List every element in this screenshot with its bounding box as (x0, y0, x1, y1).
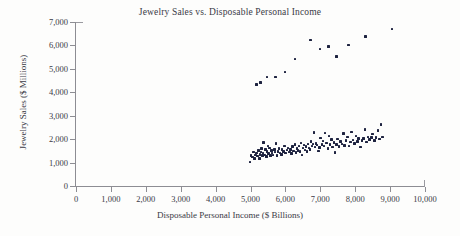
data-point (309, 39, 312, 42)
data-point (359, 146, 362, 149)
data-point (301, 154, 304, 157)
x-tick (320, 187, 321, 192)
data-point (276, 154, 279, 157)
x-tick (76, 187, 77, 192)
x-tick (111, 187, 112, 192)
y-tick-label: 1,000 (6, 158, 68, 168)
data-point (313, 131, 316, 134)
y-tick-label: 6,000 (6, 40, 68, 50)
data-point (319, 48, 322, 51)
y-tick (70, 22, 75, 23)
data-point (335, 55, 338, 58)
y-tick-label: 7,000 (6, 17, 68, 27)
data-point (309, 148, 312, 151)
y-tick (70, 163, 75, 164)
data-point (349, 141, 352, 144)
data-point (334, 151, 337, 154)
data-point (260, 147, 263, 150)
data-point (380, 123, 383, 126)
data-point (299, 150, 302, 153)
chart-screenshot: Jewelry Sales vs. Disposable Personal In… (0, 0, 460, 236)
y-axis-title: Jewelry Sales ($ Millions) (18, 27, 28, 177)
data-point (361, 139, 364, 142)
data-point (274, 76, 277, 79)
data-point (364, 35, 367, 38)
data-point (350, 131, 353, 134)
data-point (373, 139, 376, 142)
data-point (343, 144, 346, 147)
data-point (323, 145, 326, 148)
data-point (362, 137, 365, 140)
data-point (352, 139, 355, 142)
data-point (327, 45, 330, 48)
data-point (258, 157, 261, 160)
data-point (378, 138, 381, 141)
data-point (346, 136, 349, 139)
x-tick (251, 187, 252, 192)
data-point (290, 152, 293, 155)
data-point (322, 140, 325, 143)
data-point (364, 128, 367, 131)
x-tick (390, 187, 391, 192)
data-point (275, 142, 278, 145)
data-point (318, 146, 321, 149)
x-tick (146, 187, 147, 192)
data-point (249, 161, 252, 164)
data-point (280, 153, 283, 156)
y-tick (70, 69, 75, 70)
data-point (348, 145, 351, 148)
x-axis-title: Disposable Personal Income ($ Billions) (0, 210, 460, 220)
data-point (265, 155, 268, 158)
chart-title: Jewelry Sales vs. Disposable Personal In… (0, 7, 460, 17)
data-point (305, 145, 308, 148)
data-point (377, 129, 380, 132)
data-point (327, 147, 330, 150)
data-point (259, 81, 262, 84)
x-tick (285, 187, 286, 192)
data-point (319, 137, 322, 140)
data-point (371, 133, 374, 136)
data-point (312, 143, 315, 146)
data-point (342, 132, 345, 135)
data-point (314, 146, 317, 149)
data-point (306, 150, 309, 153)
data-point (381, 136, 384, 139)
y-tick-label: 3,000 (6, 111, 68, 121)
data-point (365, 141, 368, 144)
y-tick (70, 92, 75, 93)
data-point (294, 58, 297, 61)
y-tick (70, 116, 75, 117)
data-point (272, 154, 275, 157)
data-point (298, 145, 301, 148)
y-tick (70, 139, 75, 140)
data-point (255, 83, 258, 86)
data-point (266, 76, 269, 79)
scatter-plot-area (76, 22, 425, 186)
x-tick (355, 187, 356, 192)
data-point (324, 132, 327, 135)
y-tick-label: 5,000 (6, 64, 68, 74)
y-tick (70, 45, 75, 46)
data-point (295, 151, 298, 154)
data-point (325, 142, 328, 145)
data-point (283, 145, 286, 148)
data-point (262, 141, 265, 144)
data-point (375, 136, 378, 139)
y-tick-label: 2,000 (6, 134, 68, 144)
y-tick-label: 0 (6, 181, 68, 191)
x-tick (425, 187, 426, 192)
data-point (284, 71, 287, 74)
data-point (391, 28, 394, 31)
data-point (328, 135, 331, 138)
data-point (307, 143, 310, 146)
data-point (284, 152, 287, 155)
data-point (345, 139, 348, 142)
data-point (347, 44, 350, 47)
data-point (274, 151, 277, 154)
data-point (357, 137, 360, 140)
data-point (294, 143, 297, 146)
data-point (311, 145, 314, 148)
y-tick (70, 186, 75, 187)
data-point (356, 140, 359, 143)
data-point (253, 157, 256, 160)
